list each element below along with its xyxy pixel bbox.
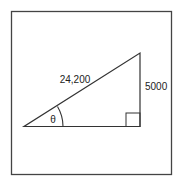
angle-arc (58, 107, 64, 127)
right-angle-marker (126, 113, 140, 127)
opposite-side-label: 5000 (145, 81, 168, 92)
triangle-diagram: 24,200 5000 θ (0, 0, 181, 185)
angle-theta-label: θ (50, 114, 56, 125)
hypotenuse-label: 24,200 (60, 74, 91, 85)
frame-border (12, 12, 172, 175)
right-triangle (24, 53, 140, 127)
